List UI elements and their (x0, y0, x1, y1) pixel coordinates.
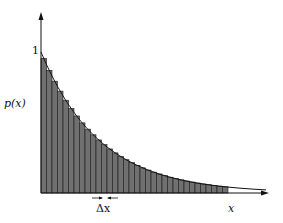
y-axis-arrow-icon (39, 12, 44, 20)
delta-x-label: Δx (96, 203, 110, 214)
histogram-bar (129, 163, 135, 193)
histogram-bar (146, 170, 152, 193)
histogram-bar (41, 58, 47, 193)
histogram-bar (124, 160, 130, 193)
histogram-bars (41, 58, 228, 193)
histogram-bar (102, 145, 108, 193)
histogram-bar (195, 183, 201, 193)
histogram-bar (151, 172, 157, 193)
histogram-bar (118, 156, 124, 193)
histogram-bar (173, 179, 179, 193)
histogram-bar (217, 186, 223, 193)
x-axis-arrow-icon (261, 191, 269, 196)
histogram-bar (52, 81, 58, 193)
y-tick-label-1: 1 (32, 45, 39, 56)
histogram-bar (135, 165, 141, 193)
x-axis-label: x (228, 203, 234, 214)
histogram-bar (179, 180, 185, 193)
histogram-bar (47, 70, 53, 193)
histogram-bar (162, 176, 168, 193)
histogram-bar (190, 182, 196, 193)
histogram-bar (63, 100, 69, 193)
histogram-chart (0, 0, 283, 223)
histogram-bar (69, 108, 75, 193)
histogram-bar (74, 116, 80, 193)
histogram-bar (58, 91, 64, 193)
histogram-bar (80, 123, 86, 193)
histogram-bar (184, 181, 190, 193)
histogram-bar (113, 153, 119, 193)
y-axis-label: p(x) (4, 98, 26, 109)
histogram-bar (157, 174, 163, 193)
delta-x-marker (92, 197, 118, 200)
histogram-bar (223, 187, 229, 193)
histogram-bar (140, 168, 146, 193)
histogram-bar (91, 135, 97, 193)
histogram-bar (168, 177, 174, 193)
histogram-bar (107, 149, 113, 193)
histogram-bar (212, 185, 218, 193)
histogram-bar (206, 185, 212, 193)
histogram-bar (85, 129, 91, 193)
histogram-bar (96, 140, 102, 193)
histogram-bar (201, 184, 207, 193)
